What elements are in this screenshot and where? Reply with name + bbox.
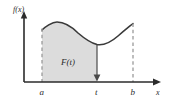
y-axis-label: f(x) (13, 5, 24, 14)
x-tick-label-a: a (40, 87, 45, 97)
x-axis-arrow-head-icon (153, 78, 161, 85)
figure-canvas: f(x) x F(t) a t b (0, 0, 169, 101)
shaded-area-under-curve (42, 22, 97, 82)
area-label: F(t) (60, 57, 75, 67)
function-area-figure: f(x) x F(t) a t b (0, 0, 169, 101)
x-tick-label-t: t (95, 87, 98, 97)
x-axis-label: x (155, 88, 160, 97)
x-tick-label-b: b (131, 87, 136, 97)
